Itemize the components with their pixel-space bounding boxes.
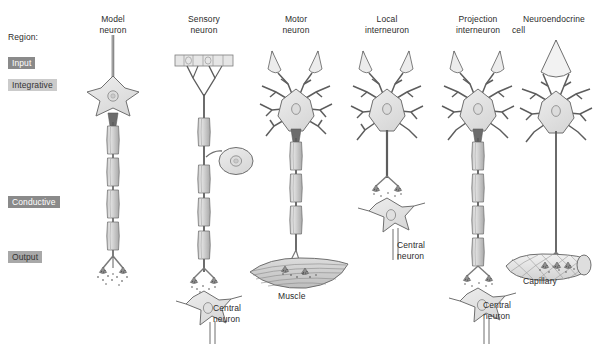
column-title-line1: Model: [68, 14, 158, 25]
column-title-line2: neuron: [251, 25, 341, 36]
column-title-line2: neuron: [159, 25, 249, 36]
label-central-neuron-local: Central neuron: [397, 240, 425, 261]
neuroendocrine-cell-drawing: [506, 40, 592, 281]
model-neuron-drawing: [87, 35, 139, 286]
label-capillary: Capillary: [523, 276, 557, 287]
region-chip-integrative: Integrative: [8, 79, 57, 91]
column-title-line1: Sensory: [159, 14, 249, 25]
region-chip-output: Output: [8, 251, 42, 263]
label-muscle: Muscle: [278, 291, 306, 302]
motor-neuron-drawing: [250, 51, 348, 288]
column-title-line1: Neuroendocrine: [508, 14, 600, 25]
column-title-motor-neuron: Motor neuron: [251, 14, 341, 35]
column-title-line1: Motor: [251, 14, 341, 25]
label-central-neuron-sensory: Central neuron: [213, 303, 241, 324]
sensory-neuron-drawing: [175, 55, 253, 344]
column-title-local-interneuron: Local interneuron: [342, 14, 432, 35]
label-central-neuron-projection: Central neuron: [483, 300, 511, 321]
column-title-neuroendocrine-cell: Neuroendocrine cell: [508, 14, 600, 35]
region-chip-conductive: Conductive: [8, 196, 60, 208]
local-interneuron-drawing: [351, 51, 425, 260]
region-legend-heading: Region:: [8, 32, 38, 42]
column-title-line2: cell: [512, 25, 600, 36]
column-title-sensory-neuron: Sensory neuron: [159, 14, 249, 35]
column-title-line2: neuron: [68, 25, 158, 36]
neuron-types-figure: Model neuron Sensory neuron Motor neuron…: [0, 0, 600, 346]
column-title-line2: interneuron: [342, 25, 432, 36]
region-chip-input: Input: [8, 57, 35, 69]
column-title-model-neuron: Model neuron: [68, 14, 158, 35]
column-title-line1: Local: [342, 14, 432, 25]
